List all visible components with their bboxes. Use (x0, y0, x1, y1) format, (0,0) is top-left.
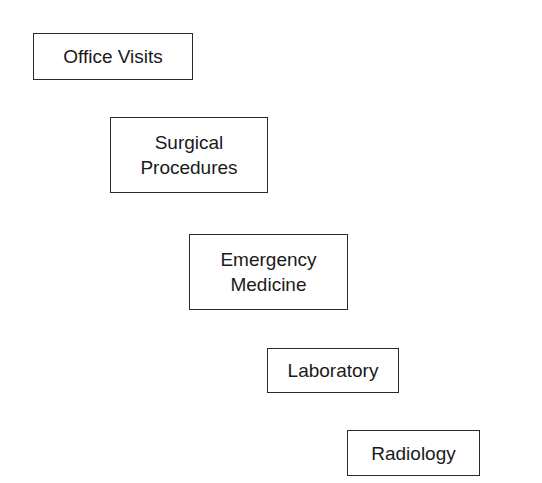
box-label: Laboratory (288, 358, 379, 383)
box-office-visits: Office Visits (33, 33, 193, 80)
box-laboratory: Laboratory (267, 348, 399, 393)
box-label: Office Visits (63, 44, 163, 69)
box-emergency-medicine: Emergency Medicine (189, 234, 348, 310)
box-label: Surgical Procedures (140, 130, 237, 180)
box-surgical-procedures: Surgical Procedures (110, 117, 268, 193)
box-radiology: Radiology (347, 430, 480, 476)
box-label: Radiology (371, 441, 456, 466)
box-label: Emergency Medicine (220, 247, 316, 297)
